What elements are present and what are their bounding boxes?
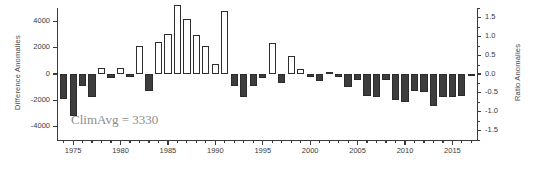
bar xyxy=(420,74,427,92)
bar xyxy=(354,74,361,80)
bar xyxy=(136,46,143,74)
bar xyxy=(439,74,446,97)
bar xyxy=(174,5,181,74)
tick-mark xyxy=(477,92,481,93)
bar xyxy=(212,64,219,74)
tick-mark xyxy=(91,140,92,143)
bar xyxy=(458,74,465,96)
bar xyxy=(363,74,370,96)
tick-mark xyxy=(243,140,244,143)
tick-mark xyxy=(348,140,349,143)
y-tick-right-label: 1.0 xyxy=(485,31,495,40)
tick-mark xyxy=(196,140,197,143)
bar xyxy=(326,72,333,74)
tick-mark xyxy=(53,126,57,127)
bar xyxy=(250,74,257,86)
bar xyxy=(307,74,314,77)
tick-mark xyxy=(158,140,159,143)
tick-mark xyxy=(452,140,453,145)
x-tick-label: 1990 xyxy=(199,146,231,155)
bar xyxy=(411,74,418,91)
y-tick-left-label: 2000 xyxy=(33,42,50,51)
tick-mark xyxy=(253,140,254,143)
tick-mark xyxy=(53,21,57,22)
tick-mark xyxy=(366,140,367,143)
y-tick-right-minor xyxy=(477,8,480,9)
tick-mark xyxy=(101,140,102,143)
tick-mark xyxy=(262,140,263,145)
bar xyxy=(231,74,238,86)
bar xyxy=(288,56,295,74)
bar xyxy=(60,74,67,99)
y-tick-right-minor xyxy=(477,27,480,28)
y-tick-right-label: 1.5 xyxy=(485,12,495,21)
tick-mark xyxy=(404,140,405,145)
tick-mark xyxy=(234,140,235,143)
tick-mark xyxy=(477,130,481,131)
y-tick-left-label: -4000 xyxy=(31,121,50,130)
bar xyxy=(117,68,124,74)
y-tick-right-label: -1.0 xyxy=(485,106,498,115)
bar xyxy=(335,74,342,77)
climavg-annotation: ClimAvg = 3330 xyxy=(71,112,158,128)
tick-mark xyxy=(442,140,443,143)
tick-mark xyxy=(281,140,282,143)
y-axis-right-title: Ratio Anomalies xyxy=(513,18,522,128)
tick-mark xyxy=(300,140,301,143)
difference-anomalies-bar-chart: Difference Anomalies Ratio Anomalies 400… xyxy=(0,0,536,174)
tick-mark xyxy=(291,140,292,143)
bar xyxy=(126,74,133,77)
tick-mark xyxy=(148,140,149,143)
tick-mark xyxy=(272,140,273,143)
bar xyxy=(382,74,389,80)
bar xyxy=(164,34,171,74)
tick-mark xyxy=(414,140,415,143)
y-tick-right-minor xyxy=(477,121,480,122)
tick-mark xyxy=(477,55,481,56)
bar xyxy=(297,69,304,74)
bar xyxy=(392,74,399,100)
tick-mark xyxy=(395,140,396,143)
tick-mark xyxy=(471,140,472,143)
y-tick-right-minor xyxy=(477,140,480,141)
tick-mark xyxy=(53,100,57,101)
y-tick-right-minor xyxy=(477,102,480,103)
bar xyxy=(269,43,276,74)
tick-mark xyxy=(357,140,358,145)
bar xyxy=(193,35,200,74)
tick-mark xyxy=(129,140,130,143)
tick-mark xyxy=(120,140,121,145)
bar xyxy=(145,74,152,91)
axis-spine-left xyxy=(57,8,58,140)
bar xyxy=(70,74,77,116)
tick-mark xyxy=(433,140,434,143)
y-tick-right-label: 0.0 xyxy=(485,69,495,78)
tick-mark xyxy=(73,140,74,145)
x-tick-label: 1995 xyxy=(247,146,279,155)
tick-mark xyxy=(338,140,339,143)
bar xyxy=(155,42,162,74)
bar xyxy=(430,74,437,106)
bar xyxy=(79,74,86,86)
tick-mark xyxy=(63,140,64,143)
x-tick-label: 2005 xyxy=(342,146,374,155)
y-tick-right-minor xyxy=(477,83,480,84)
tick-mark xyxy=(329,140,330,143)
tick-mark xyxy=(110,140,111,143)
tick-mark xyxy=(224,140,225,143)
bar xyxy=(221,11,228,74)
bar xyxy=(240,74,247,97)
tick-mark xyxy=(205,140,206,143)
x-tick-label: 1980 xyxy=(105,146,137,155)
x-tick-label: 2010 xyxy=(389,146,421,155)
tick-mark xyxy=(477,17,481,18)
tick-mark xyxy=(53,73,57,74)
tick-mark xyxy=(139,140,140,143)
x-tick-label: 2000 xyxy=(294,146,326,155)
y-tick-left-label: 0 xyxy=(46,69,50,78)
x-tick-label: 1985 xyxy=(152,146,184,155)
bar xyxy=(344,74,351,87)
tick-mark xyxy=(477,36,481,37)
bar xyxy=(107,74,114,78)
bar xyxy=(278,74,285,83)
